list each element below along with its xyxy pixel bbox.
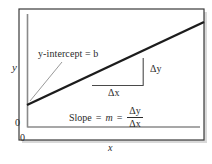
figure-canvas — [0, 0, 212, 164]
slope-word: Slope — [69, 113, 92, 123]
slope-fraction-denominator: Δx — [127, 118, 142, 129]
x-axis-label: x — [108, 143, 112, 153]
slope-symbol-m: m — [105, 113, 112, 123]
slope-fraction: Δy Δx — [127, 106, 142, 129]
delta-x-label: Δx — [108, 88, 119, 98]
delta-y-label: Δy — [150, 64, 161, 74]
y-intercept-label: y-intercept = b — [38, 49, 98, 59]
line-graph-figure: y-intercept = b y x 0 0 Δy Δx Slope = m … — [0, 0, 212, 164]
slope-equals-second: = — [116, 113, 124, 123]
slope-fraction-numerator: Δy — [127, 106, 142, 117]
origin-label-y: 0 — [15, 118, 20, 128]
slope-equation: Slope = m = Δy Δx — [69, 106, 143, 129]
origin-label-x: 0 — [20, 133, 25, 143]
y-axis-label: y — [12, 62, 17, 73]
slope-equals-first: = — [95, 113, 103, 123]
